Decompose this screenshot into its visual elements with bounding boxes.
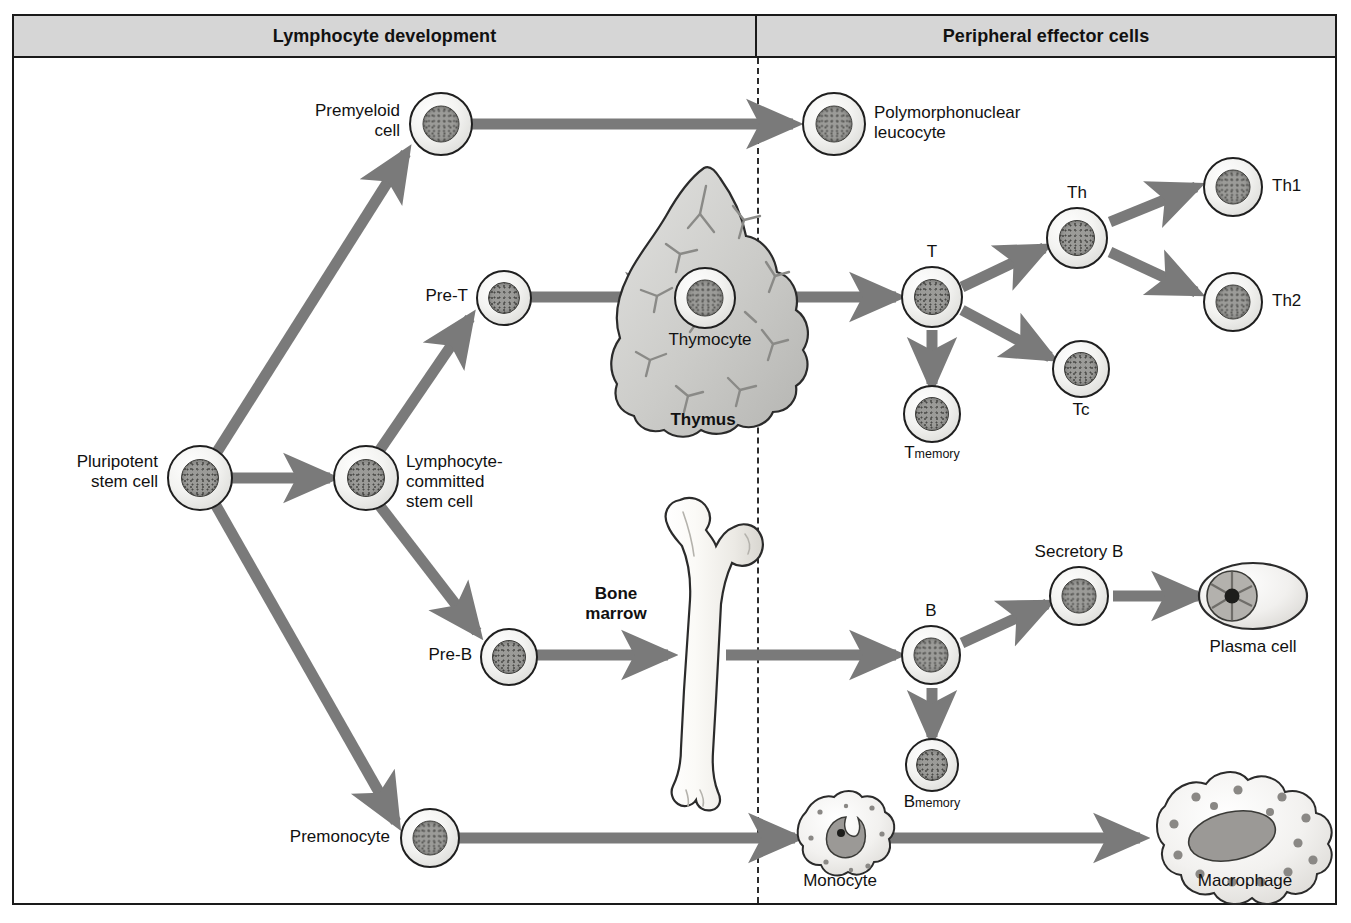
label-macrophage: Macrophage — [1180, 871, 1310, 891]
cell-nucleus — [687, 280, 724, 317]
label-t-memory-main: T — [904, 443, 914, 462]
label-b-memory-subscript: memory — [915, 796, 960, 810]
cell-nucleus — [914, 638, 949, 673]
label-th2: Th2 — [1272, 291, 1342, 311]
label-th1: Th1 — [1272, 176, 1342, 196]
label-bone-marrow: Bone marrow — [555, 584, 677, 624]
cell-nucleus — [1059, 220, 1095, 256]
label-b: B — [901, 601, 961, 621]
panel-header-peripheral-effector-cells: Peripheral effector cells — [757, 16, 1335, 58]
cell-nucleus — [1216, 285, 1251, 320]
cell-pluripotent-stem-cell — [167, 445, 233, 511]
label-pre-t: Pre-T — [360, 286, 468, 306]
cell-th2 — [1203, 272, 1263, 332]
cell-secretory-b — [1049, 566, 1109, 626]
cell-nucleus — [423, 106, 460, 143]
cell-th1 — [1203, 157, 1263, 217]
label-lymphocyte-committed-stem-cell: Lymphocyte- committed stem cell — [406, 452, 556, 512]
label-polymorphonuclear-leucocyte: Polymorphonuclear leucocyte — [874, 103, 1084, 143]
label-premonocyte: Premonocyte — [238, 827, 390, 847]
cell-premyeloid — [409, 92, 473, 156]
cell-nucleus — [1062, 579, 1097, 614]
panel-divider-dashed — [757, 58, 759, 903]
cell-t-memory — [903, 385, 961, 443]
label-th: Th — [1047, 183, 1107, 203]
cell-nucleus — [914, 279, 950, 315]
cell-nucleus — [347, 459, 385, 497]
label-b-memory: Bmemory — [882, 792, 982, 812]
cell-tc — [1052, 340, 1110, 398]
label-premyeloid-cell: Premyeloid cell — [265, 101, 400, 141]
cell-nucleus — [1064, 352, 1098, 386]
label-t: T — [902, 242, 962, 262]
label-thymus: Thymus — [633, 410, 773, 430]
cell-nucleus — [916, 749, 948, 781]
cell-b-memory — [905, 738, 959, 792]
figure-canvas: Lymphocyte development Peripheral effect… — [0, 0, 1351, 923]
cell-nucleus — [1216, 170, 1251, 205]
cell-pre-b — [480, 628, 538, 686]
label-thymocyte: Thymocyte — [640, 330, 780, 350]
label-secretory-b: Secretory B — [1014, 542, 1144, 562]
cell-pre-t — [476, 270, 532, 326]
label-pre-b: Pre-B — [362, 645, 472, 665]
cell-nucleus — [413, 821, 448, 856]
cell-lymphocyte-committed-stem-cell — [333, 445, 399, 511]
label-t-memory-subscript: memory — [915, 447, 960, 461]
cell-nucleus — [915, 397, 949, 431]
cell-premonocyte — [400, 808, 460, 868]
label-b-memory-main: B — [904, 792, 915, 811]
label-tc: Tc — [1051, 400, 1111, 420]
cell-t — [901, 266, 963, 328]
cell-thymocyte — [674, 267, 736, 329]
label-plasma-cell: Plasma cell — [1188, 637, 1318, 657]
cell-nucleus — [181, 459, 219, 497]
label-pluripotent-stem-cell: Pluripotent stem cell — [18, 452, 158, 492]
panel-header-lymphocyte-development: Lymphocyte development — [14, 16, 757, 58]
cell-nucleus — [492, 640, 526, 674]
cell-nucleus — [488, 282, 520, 314]
cell-th — [1046, 207, 1108, 269]
label-monocyte: Monocyte — [785, 871, 895, 891]
label-t-memory: Tmemory — [882, 443, 982, 463]
cell-polymorphonuclear-leucocyte — [802, 92, 866, 156]
cell-b — [901, 625, 961, 685]
cell-nucleus — [816, 106, 853, 143]
